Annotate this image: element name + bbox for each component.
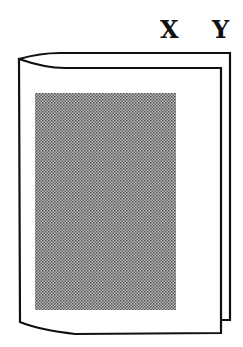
booklet-diagram [0, 0, 243, 347]
shaded-area [35, 93, 176, 310]
